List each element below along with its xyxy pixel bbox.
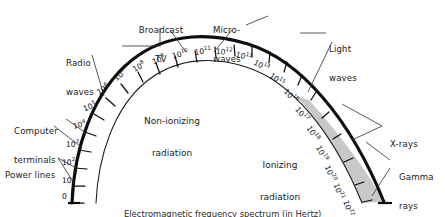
callout-gamma-rays-line2: rays <box>399 202 434 212</box>
region-ionizing-line2: radiation <box>238 192 322 203</box>
callout-gamma-rays-line1: Gamma <box>399 173 434 183</box>
callout-light-waves-line2: waves <box>329 74 357 84</box>
callout-microwaves-line1: Micro- <box>213 26 241 36</box>
tick-label-0: 0 <box>62 192 67 201</box>
callout-microwaves: Micro- waves <box>213 7 241 84</box>
tick-label-10: 10 <box>62 176 72 185</box>
region-ionizing-line1: Ionizing <box>238 160 322 171</box>
callout-broadcast-tv-line2: TV <box>133 55 189 65</box>
region-non-ionizing-line1: Non-ionizing <box>122 116 222 127</box>
tick-label-10-2: 102 <box>62 158 75 167</box>
callout-computer-terminals: Computer terminals <box>14 108 58 185</box>
region-non-ionizing-line2: radiation <box>122 148 222 159</box>
callout-microwaves-line2: waves <box>213 55 241 65</box>
region-label-non-ionizing: Non-ionizing radiation <box>122 95 222 180</box>
figure-caption: Electromagnetic frequency spectrum (in H… <box>124 209 321 217</box>
em-spectrum-diagram: 0 10 102 103 104 105 106 107 108 109 101… <box>0 0 445 217</box>
callout-broadcast-tv-line1: Broadcast <box>133 26 189 36</box>
region-label-ionizing: Ionizing radiation <box>238 139 322 217</box>
callout-radio-waves-line1: Radio <box>66 59 94 69</box>
callout-computer-terminals-line2: terminals <box>14 156 58 166</box>
callout-computer-terminals-line1: Computer <box>14 127 58 137</box>
callout-broadcast-tv: Broadcast TV <box>133 7 189 84</box>
callout-radio-waves-line2: waves <box>66 88 94 98</box>
callout-light-waves-line1: Light <box>329 45 357 55</box>
tick-label-10-3: 103 <box>66 140 79 149</box>
callout-light-waves: Light waves <box>329 26 357 103</box>
callout-gamma-rays: Gamma rays <box>399 154 434 217</box>
callout-x-rays-line1: X-rays <box>390 140 418 150</box>
callout-radio-waves: Radio waves <box>66 40 94 117</box>
